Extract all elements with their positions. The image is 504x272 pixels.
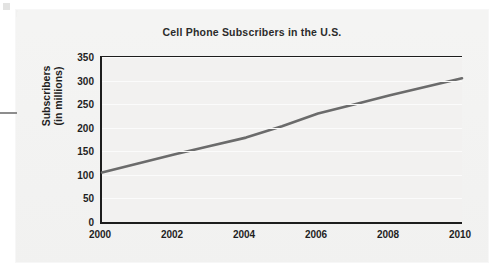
gridline-y-200	[102, 128, 462, 129]
y-tick-label-300: 300	[60, 75, 94, 86]
gridline-y-150	[102, 151, 462, 152]
y-tick-label-100: 100	[60, 169, 94, 180]
x-tick-label-2010: 2010	[430, 229, 490, 240]
y-tick-label-350: 350	[60, 52, 94, 63]
page-corner-mark	[3, 3, 10, 10]
y-axis-title-line1: Subscribers	[40, 36, 52, 156]
plot-area	[100, 57, 462, 224]
x-tick-label-2002: 2002	[142, 229, 202, 240]
gridline-y-250	[102, 104, 462, 105]
y-tick-label-250: 250	[60, 99, 94, 110]
y-tick-label-150: 150	[60, 146, 94, 157]
y-tick-label-200: 200	[60, 122, 94, 133]
y-tick-label-0: 0	[60, 217, 94, 228]
x-tick-label-2000: 2000	[70, 229, 130, 240]
x-tick-label-2004: 2004	[214, 229, 274, 240]
gridline-y-300	[102, 81, 462, 82]
series-polyline	[102, 78, 462, 172]
gridline-y-100	[102, 175, 462, 176]
y-tick-label-50: 50	[60, 193, 94, 204]
x-tick-label-2006: 2006	[286, 229, 346, 240]
gridline-y-50	[102, 198, 462, 199]
data-series-line	[102, 57, 462, 222]
left-margin-rule	[0, 112, 17, 114]
x-tick-label-2008: 2008	[358, 229, 418, 240]
gridline-y-350	[102, 57, 462, 58]
